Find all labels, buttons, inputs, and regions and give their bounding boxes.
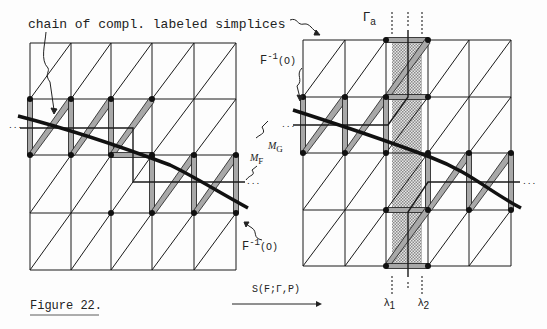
right-left-ellipsis: ... (281, 120, 295, 129)
lambda1-sub: 1 (390, 300, 396, 311)
chain-annotation-label: chain of compl. labeled simplices (28, 17, 285, 32)
right-zero-set-sup: -1 (267, 52, 278, 62)
manifold-G-sub: G (276, 144, 283, 154)
lambda2-label: λ2 (418, 296, 429, 311)
left-zero-set-arg: (O) (260, 242, 278, 253)
left-ellipsis: ... (8, 121, 22, 130)
gamma-a-label: Γa (363, 9, 376, 27)
lambda2-sub: 2 (424, 300, 430, 311)
left-right-ellipsis: ... (246, 177, 260, 186)
figure-22: chain of compl. labeled simplices ... ..… (0, 0, 547, 329)
right-zero-set-label: F-1(O) (260, 52, 296, 68)
manifold-F-sub: F (258, 156, 263, 166)
right-path-line (293, 30, 408, 125)
gamma-sub: a (370, 16, 376, 27)
left-zero-set-sup: -1 (249, 238, 260, 248)
right-right-ellipsis: ... (522, 177, 536, 186)
transformation-arrow (232, 301, 322, 307)
lambda1-label: λ1 (384, 296, 395, 311)
transformation-label: S(F;Γ,P) (252, 284, 300, 295)
left-zero-set-label: F-1(O) (242, 238, 278, 254)
right-zero-set-arg: (O) (278, 56, 296, 67)
figure-caption: Figure 22. (30, 299, 102, 313)
manifold-G-label: MG (268, 140, 283, 154)
manifold-F-label: MF (250, 152, 263, 166)
diagram-canvas (0, 0, 547, 329)
